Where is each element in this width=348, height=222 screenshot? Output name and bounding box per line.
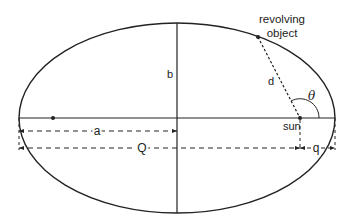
label-revolving: revolving <box>259 13 305 25</box>
arrow-q-right <box>330 146 335 150</box>
arrow-q-left <box>300 146 305 150</box>
label-Q: Q <box>137 141 146 155</box>
label-b: b <box>167 68 173 80</box>
label-object: object <box>267 27 298 39</box>
arrow-Q-right <box>295 146 300 150</box>
label-q: q <box>313 141 320 155</box>
label-theta: θ <box>308 89 316 103</box>
orbit-diagram: revolving object b d θ sun a Q q <box>0 0 348 222</box>
arrow-Q-left <box>19 146 24 150</box>
empty-focus-dot <box>51 116 55 120</box>
arrow-a-right <box>172 129 177 133</box>
label-sun: sun <box>283 120 301 132</box>
distance-line <box>258 37 300 118</box>
label-a: a <box>94 124 101 138</box>
label-d: d <box>268 75 274 87</box>
